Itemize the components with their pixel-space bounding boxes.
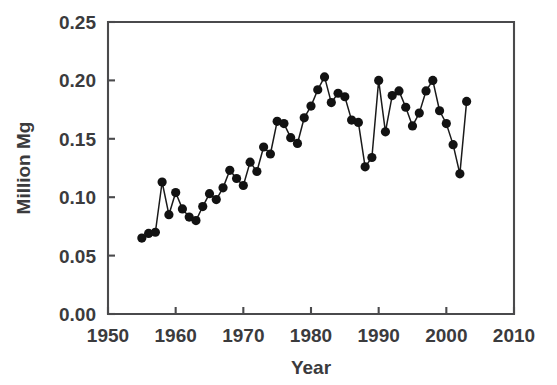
data-point <box>212 195 221 204</box>
data-point <box>178 204 187 213</box>
data-point <box>340 92 349 101</box>
data-point <box>354 118 363 127</box>
data-point <box>191 216 200 225</box>
data-point <box>435 106 444 115</box>
data-point <box>158 177 167 186</box>
data-point <box>300 113 309 122</box>
data-point <box>239 181 248 190</box>
data-point <box>401 103 410 112</box>
x-tick-label: 1970 <box>222 325 264 346</box>
data-point <box>320 72 329 81</box>
data-point <box>394 86 403 95</box>
data-point <box>232 174 241 183</box>
data-point <box>198 202 207 211</box>
data-point <box>306 102 315 111</box>
data-point <box>313 85 322 94</box>
y-tick-label: 0.05 <box>59 246 96 267</box>
y-tick-label: 0.10 <box>59 187 96 208</box>
x-tick-label: 1960 <box>155 325 197 346</box>
y-axis-title: Million Mg <box>13 122 34 215</box>
data-point <box>442 119 451 128</box>
data-point <box>381 127 390 136</box>
chart-figure: 0.000.050.100.150.200.25 195019601970198… <box>0 0 557 385</box>
x-axis-title: Year <box>291 357 332 378</box>
x-tick-label: 1950 <box>87 325 129 346</box>
data-point <box>151 228 160 237</box>
y-tick-label: 0.25 <box>59 12 96 33</box>
data-point <box>415 109 424 118</box>
data-point <box>428 76 437 85</box>
x-tick-label: 1980 <box>290 325 332 346</box>
data-point <box>374 76 383 85</box>
data-point <box>259 142 268 151</box>
y-tick-label: 0.20 <box>59 70 96 91</box>
x-tick-label: 2000 <box>425 325 467 346</box>
data-point <box>164 210 173 219</box>
data-point <box>327 98 336 107</box>
data-point <box>361 162 370 171</box>
data-point <box>266 149 275 158</box>
data-point <box>225 166 234 175</box>
data-point <box>455 169 464 178</box>
data-point <box>218 183 227 192</box>
data-point <box>279 119 288 128</box>
y-tick-label: 0.15 <box>59 129 96 150</box>
data-point <box>462 97 471 106</box>
x-tick-label: 2010 <box>493 325 535 346</box>
x-tick-label: 1990 <box>358 325 400 346</box>
data-point <box>171 188 180 197</box>
data-point <box>293 139 302 148</box>
data-point <box>449 140 458 149</box>
y-tick-label: 0.00 <box>59 304 96 325</box>
data-point <box>421 86 430 95</box>
data-point <box>246 158 255 167</box>
data-point <box>367 153 376 162</box>
data-point <box>408 121 417 130</box>
data-point <box>252 167 261 176</box>
line-chart: 0.000.050.100.150.200.25 195019601970198… <box>0 0 557 385</box>
